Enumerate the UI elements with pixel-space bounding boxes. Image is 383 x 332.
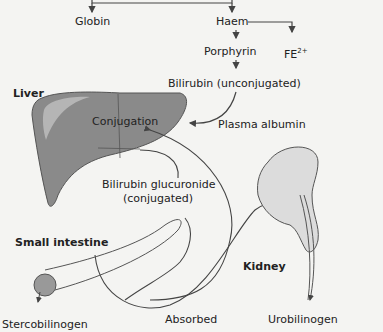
- node-bilirubin-glucuronide: Bilirubin glucuronide: [102, 178, 216, 191]
- node-conjugation: Conjugation: [92, 115, 158, 128]
- node-urobilinogen: Urobilinogen: [268, 313, 338, 326]
- node-haem: Haem: [216, 15, 249, 28]
- organ-liver-label: Liver: [13, 87, 44, 100]
- node-absorbed: Absorbed: [165, 313, 217, 326]
- node-globin: Globin: [75, 15, 110, 28]
- small-intestine-icon: [34, 220, 181, 302]
- node-stercobilinogen: Stercobilinogen: [2, 318, 88, 331]
- bilirubin-metabolism-diagram: Globin Haem Porphyrin FE2+ Bilirubin (un…: [0, 0, 383, 332]
- kidney-icon: [257, 147, 318, 300]
- diagram-graphics: [0, 0, 383, 332]
- node-plasma-albumin: Plasma albumin: [218, 118, 306, 131]
- organ-kidney-label: Kidney: [243, 260, 286, 273]
- node-conjugated: (conjugated): [123, 192, 193, 205]
- node-bilirubin-unconjugated: Bilirubin (unconjugated): [168, 77, 301, 90]
- node-iron: FE2+: [284, 45, 308, 61]
- node-porphyrin: Porphyrin: [204, 45, 257, 58]
- organ-small-intestine-label: Small intestine: [15, 236, 108, 249]
